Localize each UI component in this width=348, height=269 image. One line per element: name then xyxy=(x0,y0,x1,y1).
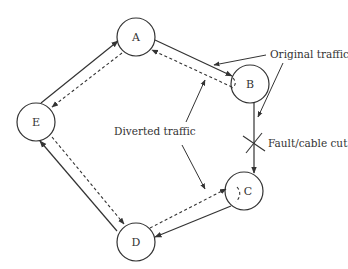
leader-diverted-upper xyxy=(186,80,205,122)
leader-original-a-b xyxy=(214,55,266,65)
node-a-label: A xyxy=(131,31,141,44)
original-traffic-label: Original traffic xyxy=(270,48,348,60)
leader-diverted-lower xyxy=(182,145,205,189)
loopback-c xyxy=(236,187,240,202)
node-a: A xyxy=(117,18,155,56)
node-d: D xyxy=(117,223,155,261)
diverted-traffic-path xyxy=(52,50,240,228)
node-d-label: D xyxy=(132,236,141,249)
leader-original-b-c xyxy=(258,63,283,117)
node-b-label: B xyxy=(246,78,254,91)
edge-b-a-diverted xyxy=(152,50,232,87)
original-traffic-path xyxy=(40,40,254,237)
edge-d-c-diverted xyxy=(150,189,226,228)
node-c: C xyxy=(225,172,263,210)
edge-a-b xyxy=(155,40,232,76)
edge-d-e xyxy=(40,141,117,231)
edge-e-d-diverted xyxy=(52,137,124,224)
annotation-original-traffic: Original traffic xyxy=(214,48,348,117)
node-e-label: E xyxy=(32,116,40,129)
edge-e-a xyxy=(41,41,118,103)
node-b: B xyxy=(231,65,269,103)
fault-label: Fault/cable cut xyxy=(268,137,348,149)
node-e: E xyxy=(17,103,55,141)
edge-c-d xyxy=(155,206,231,237)
loopback-b xyxy=(232,78,235,88)
node-c-label: C xyxy=(244,185,252,198)
nodes: A B C D E xyxy=(17,18,269,261)
ring-network-diagram: A B C D E Origina xyxy=(0,0,348,269)
diverted-traffic-label: Diverted traffic xyxy=(114,125,196,137)
edge-a-e-diverted xyxy=(52,53,122,107)
annotation-diverted-traffic: Diverted traffic xyxy=(114,80,205,189)
